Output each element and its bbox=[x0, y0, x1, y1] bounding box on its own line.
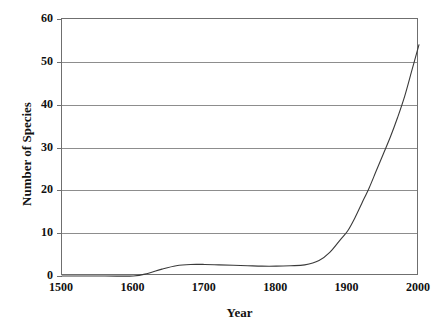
y-axis-tick bbox=[57, 276, 62, 277]
y-axis-tick-label: 20 bbox=[41, 183, 53, 195]
y-axis-title: Number of Species bbox=[19, 64, 35, 244]
y-axis-tick-label: 30 bbox=[41, 141, 53, 153]
x-axis-tick-label: 2000 bbox=[393, 281, 443, 293]
y-axis-tick-label: 50 bbox=[41, 55, 53, 67]
x-axis-tick-label: 1900 bbox=[322, 281, 372, 293]
y-axis-tick-label: 40 bbox=[41, 98, 53, 110]
x-axis-tick-label: 1600 bbox=[107, 281, 157, 293]
plot-area bbox=[61, 18, 418, 275]
line-series-cumulative-species bbox=[62, 19, 419, 276]
series-path bbox=[62, 45, 419, 276]
chart-page: 0102030405060 150016001700180019002000 Y… bbox=[0, 0, 444, 331]
y-axis-tick-label: 10 bbox=[41, 226, 53, 238]
x-axis-tick-label: 1500 bbox=[36, 281, 86, 293]
x-axis-tick-label: 1700 bbox=[179, 281, 229, 293]
y-axis-tick-label: 60 bbox=[41, 12, 53, 24]
x-axis-title: Year bbox=[61, 305, 418, 321]
x-axis-tick-label: 1800 bbox=[250, 281, 300, 293]
